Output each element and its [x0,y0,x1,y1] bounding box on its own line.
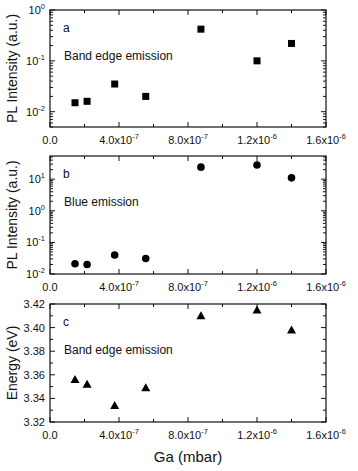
y-tick-label: 3.34 [24,392,45,404]
data-point-circle [111,251,119,259]
x-tick-label: 8.0x10-7 [168,427,208,441]
data-point-square [197,26,204,33]
y-tick-label: 100 [29,2,45,16]
data-point-circle [71,260,79,268]
panel-b: 0.04.0x10-78.0x10-71.2x10-61.6x10-610110… [4,156,346,293]
panel-annotation: Band edge emission [64,343,173,357]
y-tick-label: 3.42 [24,298,45,310]
x-tick-label: 0.0 [42,281,57,293]
x-tick-label: 1.2x10-6 [237,132,277,146]
y-tick-label: 3.32 [24,416,45,428]
x-tick-label: 0.0 [42,429,57,441]
x-tick-label: 1.2x10-6 [237,427,277,441]
panel-label: c [63,315,69,329]
x-tick-label: 8.0x10-7 [168,279,208,293]
data-point-circle [253,161,261,169]
x-tick-label: 1.6x10-6 [306,427,346,441]
data-point-circle [142,255,150,263]
figure: 0.04.0x10-78.0x10-71.2x10-61.6x10-610010… [0,0,358,471]
y-tick-label: 101 [29,171,45,185]
panel-annotation: Band edge emission [64,49,173,63]
y-tick-label: 10-2 [26,266,45,280]
y-axis-label: PL Intensity (a.u.) [4,160,20,269]
x-tick-label: 8.0x10-7 [168,132,208,146]
data-point-circle [288,174,296,182]
y-tick-label: 3.36 [24,369,45,381]
x-tick-label: 4.0x10-7 [99,279,139,293]
x-tick-label: 4.0x10-7 [99,427,139,441]
data-point-triangle [83,380,92,388]
y-tick-label: 10-1 [26,234,45,248]
data-point-square [288,40,295,47]
plot-frame [50,304,326,422]
y-tick-label: 100 [29,203,45,217]
x-tick-label: 0.0 [42,134,57,146]
data-point-triangle [110,401,119,409]
panel-label: b [63,167,70,181]
y-tick-label: 3.38 [24,345,45,357]
data-point-square [254,57,261,64]
panel-c: 0.04.0x10-78.0x10-71.2x10-61.6x10-63.423… [4,298,346,441]
data-point-triangle [287,325,296,333]
x-tick-label: 4.0x10-7 [99,132,139,146]
data-point-square [72,99,79,106]
chart-svg: 0.04.0x10-78.0x10-71.2x10-61.6x10-610010… [0,0,358,471]
y-axis-label: PL Intensity (a.u.) [4,14,20,123]
plot-frame [50,156,326,274]
y-tick-label: 10-1 [26,53,45,67]
data-point-triangle [71,375,80,383]
data-point-triangle [141,383,150,391]
data-point-triangle [196,311,205,319]
y-axis-label: Energy (eV) [4,326,20,401]
data-point-square [84,98,91,105]
x-tick-label: 1.2x10-6 [237,279,277,293]
panel-a: 0.04.0x10-78.0x10-71.2x10-61.6x10-610010… [4,2,346,146]
y-tick-label: 3.40 [24,322,45,334]
plot-frame [50,10,326,127]
data-point-square [142,93,149,100]
data-point-square [111,81,118,88]
data-point-circle [197,163,205,171]
x-tick-label: 1.6x10-6 [306,132,346,146]
y-tick-label: 10-2 [26,104,45,118]
data-point-circle [83,261,91,269]
panel-annotation: Blue emission [64,195,139,209]
panel-label: a [63,21,70,35]
x-tick-label: 1.6x10-6 [306,279,346,293]
data-point-triangle [253,305,262,313]
x-axis-label: Ga (mbar) [154,448,222,465]
